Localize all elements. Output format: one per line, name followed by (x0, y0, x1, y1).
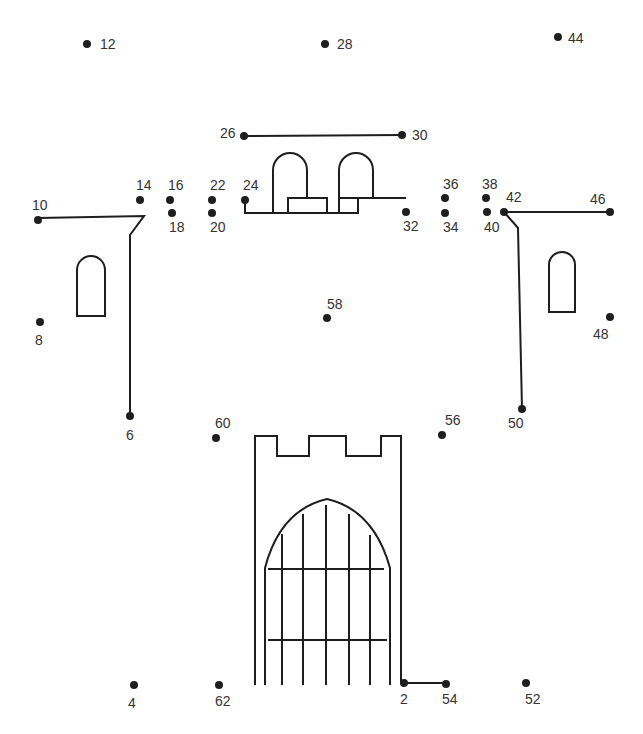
central-battlement (245, 153, 406, 213)
dot-6[interactable] (126, 412, 134, 420)
dot-38[interactable] (482, 194, 490, 202)
dot-label-54: 54 (442, 692, 458, 706)
dot-60[interactable] (212, 434, 220, 442)
portcullis (268, 505, 387, 685)
dot-label-34: 34 (443, 220, 459, 234)
dot-40[interactable] (483, 208, 491, 216)
dot-label-24: 24 (243, 178, 259, 192)
dot-12[interactable] (83, 40, 91, 48)
dot-56[interactable] (438, 431, 446, 439)
gate-arch (265, 499, 390, 685)
dot-62[interactable] (215, 681, 223, 689)
dot-label-22: 22 (210, 178, 226, 192)
dot-label-12: 12 (100, 37, 116, 51)
dot-label-20: 20 (210, 220, 226, 234)
dot-label-58: 58 (327, 297, 343, 311)
dot-label-60: 60 (215, 416, 231, 430)
dot-34[interactable] (441, 209, 449, 217)
right-tower-edge (504, 212, 610, 409)
dot-label-56: 56 (445, 413, 461, 427)
dot-52[interactable] (522, 679, 530, 687)
dot-4[interactable] (130, 681, 138, 689)
dot-2[interactable] (400, 679, 408, 687)
dot-30[interactable] (398, 131, 406, 139)
dot-label-18: 18 (169, 220, 185, 234)
dot-32[interactable] (402, 208, 410, 216)
dot-20[interactable] (208, 209, 216, 217)
dot-label-48: 48 (593, 327, 609, 341)
dot-label-2: 2 (400, 692, 408, 706)
dot-label-62: 62 (215, 694, 231, 708)
dot-label-50: 50 (508, 416, 524, 430)
dot-label-46: 46 (590, 192, 606, 206)
dot-label-36: 36 (443, 177, 459, 191)
dot-8[interactable] (36, 318, 44, 326)
dot-22[interactable] (208, 196, 216, 204)
dot-label-42: 42 (506, 190, 522, 204)
line-26-30 (244, 135, 402, 136)
dot-label-16: 16 (168, 178, 184, 192)
dot-46[interactable] (606, 208, 614, 216)
dot-label-38: 38 (482, 177, 498, 191)
dot-48[interactable] (606, 313, 614, 321)
dot-36[interactable] (441, 194, 449, 202)
dot-14[interactable] (136, 196, 144, 204)
dot-label-26: 26 (220, 126, 236, 140)
dot-58[interactable] (323, 314, 331, 322)
dot-label-32: 32 (403, 219, 419, 233)
dot-label-44: 44 (568, 31, 584, 45)
dot-label-6: 6 (126, 428, 134, 442)
dot-label-30: 30 (412, 128, 428, 142)
right-window (549, 252, 575, 312)
dot-10[interactable] (34, 216, 42, 224)
dot-50[interactable] (518, 405, 526, 413)
dot-54[interactable] (442, 680, 450, 688)
dot-label-4: 4 (128, 696, 136, 710)
left-window (77, 256, 105, 316)
dot-18[interactable] (168, 209, 176, 217)
dot-label-28: 28 (337, 37, 353, 51)
dot-16[interactable] (166, 196, 174, 204)
dot-44[interactable] (554, 33, 562, 41)
dot-label-10: 10 (32, 198, 48, 212)
dot-42[interactable] (500, 208, 508, 216)
dot-label-52: 52 (525, 692, 541, 706)
gate-tower (255, 436, 446, 685)
castle-outline-drawing (0, 0, 643, 734)
dot-label-8: 8 (35, 333, 43, 347)
dot-24[interactable] (241, 196, 249, 204)
dot-label-14: 14 (136, 178, 152, 192)
dot-28[interactable] (321, 40, 329, 48)
dot-26[interactable] (240, 132, 248, 140)
dot-label-40: 40 (484, 220, 500, 234)
